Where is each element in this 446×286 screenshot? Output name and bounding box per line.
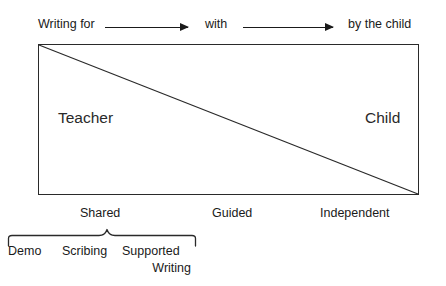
continuum-arrow-1: [105, 23, 188, 32]
continuum-label-writing-for: Writing for: [38, 12, 95, 36]
continuum-label-by-the-child: by the child: [348, 12, 411, 36]
bracket-items-row: Demo Scribing Supported Writing: [0, 243, 220, 283]
arrow-shaft: [105, 27, 188, 28]
arrow-shaft: [243, 27, 333, 28]
mode-label-guided: Guided: [212, 203, 252, 223]
mode-label-row: Shared Guided Independent: [0, 203, 446, 223]
mode-label-shared: Shared: [80, 203, 120, 223]
continuum-arrow-2: [243, 23, 333, 32]
continuum-row: Writing for with by the child: [0, 12, 446, 36]
bracket-item-supported: Supported: [122, 243, 180, 260]
bracket-item-supported-line2: Writing: [122, 260, 191, 277]
bracket-item-demo: Demo: [8, 243, 41, 260]
bracket-item-scribing: Scribing: [62, 243, 107, 260]
zone-label-teacher: Teacher: [58, 109, 113, 127]
continuum-label-with: with: [205, 12, 227, 36]
zone-label-child: Child: [365, 109, 400, 127]
arrow-head-icon: [180, 23, 189, 31]
arrow-head-icon: [325, 23, 334, 31]
diagram-canvas: Writing for with by the child Teacher Ch…: [0, 0, 446, 286]
mode-label-independent: Independent: [320, 203, 390, 223]
